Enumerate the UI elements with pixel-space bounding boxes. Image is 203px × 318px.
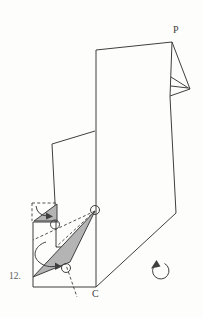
rotate-arrow-head xyxy=(151,260,161,269)
point-p-label: P xyxy=(173,25,179,35)
pivot-circle-top xyxy=(91,206,100,215)
middle-flap-outline xyxy=(52,131,95,247)
pivot-circle-bottom xyxy=(62,264,71,273)
origami-diagram-stage: 12. P C xyxy=(0,0,203,318)
paper-main-outline xyxy=(96,42,176,287)
step-number-label: 12. xyxy=(9,271,21,281)
small-shaded-triangle xyxy=(34,204,57,221)
origami-diagram-canvas xyxy=(0,0,203,318)
hidden-edge-extension xyxy=(65,262,77,297)
point-c-label: C xyxy=(92,289,99,299)
corner-flap-outer-edge xyxy=(171,42,190,89)
corner-flap-lower-edge xyxy=(170,89,190,96)
